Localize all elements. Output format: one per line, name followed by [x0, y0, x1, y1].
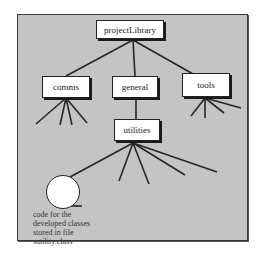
- node-utilities: utilities: [114, 119, 160, 141]
- leaf-caption: code for the developed classes stored in…: [33, 210, 90, 246]
- node-comms: comms: [42, 76, 90, 98]
- node-label: projectLibrary: [104, 25, 156, 35]
- node-projectlibrary: projectLibrary: [96, 20, 164, 39]
- caption-line: stored in file: [33, 228, 90, 237]
- node-label: comms: [53, 82, 79, 92]
- leaf-circle-icon: [46, 175, 80, 209]
- node-label: tools: [197, 80, 215, 90]
- node-general: general: [112, 76, 158, 98]
- node-label: general: [122, 82, 148, 92]
- caption-line: sutility.class: [33, 237, 90, 246]
- caption-line: code for the: [33, 210, 90, 219]
- node-label: utilities: [124, 125, 151, 135]
- caption-line: developed classes: [33, 219, 90, 228]
- node-tools: tools: [182, 73, 230, 97]
